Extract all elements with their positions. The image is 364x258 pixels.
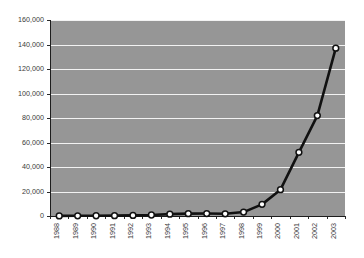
x-tick-label: 1992 xyxy=(126,223,135,239)
x-tick-label: 1999 xyxy=(255,223,264,239)
x-tick-label: 1991 xyxy=(108,223,117,239)
data-point-marker xyxy=(130,212,136,218)
x-tick-label: 1998 xyxy=(237,223,246,239)
x-tick-label: 2001 xyxy=(292,223,301,239)
y-tick-label: 60,000 xyxy=(22,138,44,147)
y-tick-label: 40,000 xyxy=(22,162,44,171)
data-point-marker xyxy=(204,211,210,217)
x-tick-label: 1989 xyxy=(71,223,80,239)
x-tick-label: 1990 xyxy=(89,223,98,239)
data-point-marker xyxy=(56,213,62,219)
y-tick-label: 160,000 xyxy=(18,15,44,24)
data-point-marker xyxy=(314,113,320,119)
x-tick-label: 2003 xyxy=(329,223,338,239)
data-point-marker xyxy=(185,211,191,217)
data-point-marker xyxy=(241,209,247,215)
data-point-marker xyxy=(222,211,228,217)
data-point-marker xyxy=(75,213,81,219)
x-tick-label: 2002 xyxy=(310,223,319,239)
data-point-marker xyxy=(296,149,302,155)
x-tick-label: 1994 xyxy=(163,223,172,239)
data-point-marker xyxy=(149,212,155,218)
y-tick-label: 0 xyxy=(40,211,44,220)
y-tick-label: 140,000 xyxy=(18,40,44,49)
data-point-marker xyxy=(167,211,173,217)
x-tick-label: 2000 xyxy=(273,223,282,239)
y-tick-label: 20,000 xyxy=(22,187,44,196)
data-point-marker xyxy=(112,213,118,219)
line-chart: 020,00040,00060,00080,000100,000120,0001… xyxy=(0,0,364,258)
data-point-marker xyxy=(333,45,339,51)
x-tick-label: 1996 xyxy=(200,223,209,239)
x-tick-label: 1993 xyxy=(144,223,153,239)
x-tick-label: 1988 xyxy=(52,223,61,239)
y-axis-tick-labels: 020,00040,00060,00080,000100,000120,0001… xyxy=(18,15,44,220)
y-tick-label: 100,000 xyxy=(18,89,44,98)
x-tick-label: 1997 xyxy=(218,223,227,239)
x-tick-label: 1995 xyxy=(181,223,190,239)
data-point-marker xyxy=(93,213,99,219)
y-tick-label: 80,000 xyxy=(22,113,44,122)
y-tick-label: 120,000 xyxy=(18,64,44,73)
chart-container: 020,00040,00060,00080,000100,000120,0001… xyxy=(0,0,364,258)
data-point-marker xyxy=(278,187,284,193)
data-point-marker xyxy=(259,201,265,207)
